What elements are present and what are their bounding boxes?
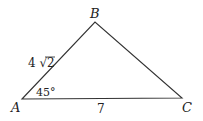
vertex-label-b: B: [89, 6, 100, 21]
angle-label-a: 45°: [36, 86, 56, 99]
triangle-diagram: A B C 4 √2 7 45°: [0, 0, 203, 121]
side-label-ac: 7: [97, 102, 105, 116]
vertex-label-a: A: [10, 100, 20, 115]
vertex-label-c: C: [182, 100, 192, 115]
side-label-ab: 4 √2: [28, 56, 55, 70]
